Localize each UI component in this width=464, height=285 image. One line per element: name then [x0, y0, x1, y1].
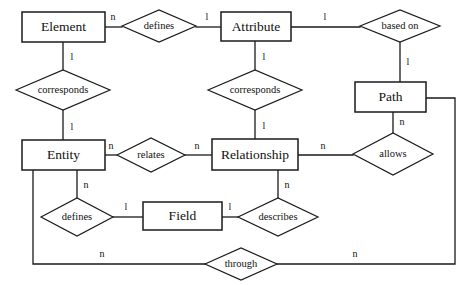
er-diagram-canvas: nlllllllnnnnnllnnnElementAttributePathEn…	[0, 0, 464, 285]
relationship-label-based-on: based on	[381, 21, 418, 32]
cardinality-label-entity-defines: n	[84, 180, 89, 190]
cardinality-label-corresponds-relationship: l	[263, 121, 266, 131]
connection-line-through-path	[277, 98, 455, 264]
relationship-label-allows: allows	[379, 149, 406, 160]
cardinality-label-relates-relationship: n	[195, 141, 200, 151]
cardinality-label-attribute-corresponds: l	[263, 52, 266, 62]
cardinality-label-element-defines: n	[111, 12, 116, 22]
entity-label-attribute: Attribute	[232, 20, 281, 34]
cardinality-label-entity-relates: n	[109, 141, 114, 151]
cardinality-label-entity-through: n	[100, 249, 105, 259]
entity-label-relationship: Relationship	[221, 148, 289, 162]
cardinality-label-basedon-path: l	[407, 57, 410, 67]
relationship-label-relates: relates	[137, 150, 164, 161]
cardinality-label-defines-field: l	[125, 202, 128, 212]
relationship-label-defines-top: defines	[144, 21, 174, 32]
relationship-label-describes: describes	[258, 212, 297, 223]
entity-label-field: Field	[169, 209, 197, 223]
er-diagram-svg	[0, 0, 464, 285]
entity-label-entity: Entity	[47, 148, 80, 162]
entity-label-element: Element	[41, 20, 86, 34]
cardinality-label-corresponds-entity: l	[71, 122, 74, 132]
relationship-label-defines-bottom: defines	[62, 212, 92, 223]
cardinality-label-defines-attribute: l	[206, 12, 209, 22]
cardinality-label-relationship-describes: n	[285, 180, 290, 190]
cardinality-label-relationship-allows: n	[321, 141, 326, 151]
cardinality-label-through-path: n	[353, 249, 358, 259]
relationship-label-corresponds-left: corresponds	[38, 85, 89, 96]
entity-label-path: Path	[378, 90, 402, 104]
cardinality-label-field-describes: l	[229, 202, 232, 212]
relationship-label-through: through	[225, 259, 258, 270]
cardinality-label-element-corresponds: l	[71, 52, 74, 62]
entities-layer	[22, 12, 426, 230]
relationship-label-corresponds-right: corresponds	[230, 85, 281, 96]
cardinality-label-path-allows: n	[400, 117, 405, 127]
cardinality-label-attribute-basedon: l	[324, 12, 327, 22]
